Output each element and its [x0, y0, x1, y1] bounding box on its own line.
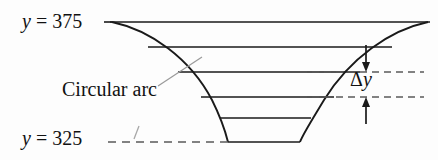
bottom-level-value: 325 [52, 127, 82, 149]
top-level-value: 375 [52, 10, 82, 32]
top-level-equals: = [31, 10, 52, 32]
bottom-level-variable: y [22, 127, 31, 149]
circular-arc-label: Circular arc [62, 78, 157, 101]
delta-y-variable: y [363, 68, 372, 90]
bottom-level-label: y = 325 [22, 127, 82, 150]
bottom-level-equals: = [31, 127, 52, 149]
delta-y-arrow-up-head [362, 97, 370, 107]
datum-tick-mark [134, 126, 139, 139]
delta-y-label: Δy [350, 68, 372, 91]
figure-container: y = 375 y = 325 Circular arc Δy [0, 0, 438, 160]
top-level-variable: y [22, 10, 31, 32]
delta-symbol: Δ [350, 68, 363, 90]
top-level-label: y = 375 [22, 10, 82, 33]
